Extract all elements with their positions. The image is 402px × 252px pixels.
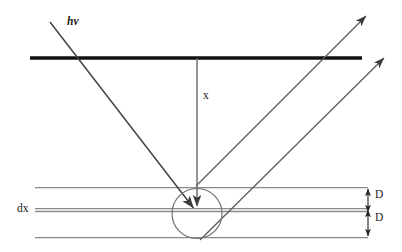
- label-gap-d-top: D: [375, 189, 383, 201]
- slab-boundary-lines: [35, 188, 368, 238]
- label-incident-photon: hv: [67, 16, 79, 28]
- label-slab-thickness-dx: dx: [17, 203, 29, 215]
- outgoing-ray-lower: [200, 58, 384, 240]
- diagram-svg: [0, 0, 402, 252]
- diagram-canvas: hv x dx D D: [0, 0, 402, 252]
- label-depth-x: x: [203, 90, 209, 102]
- incident-photon-ray: [50, 22, 194, 208]
- label-gap-d-bottom: D: [375, 212, 383, 224]
